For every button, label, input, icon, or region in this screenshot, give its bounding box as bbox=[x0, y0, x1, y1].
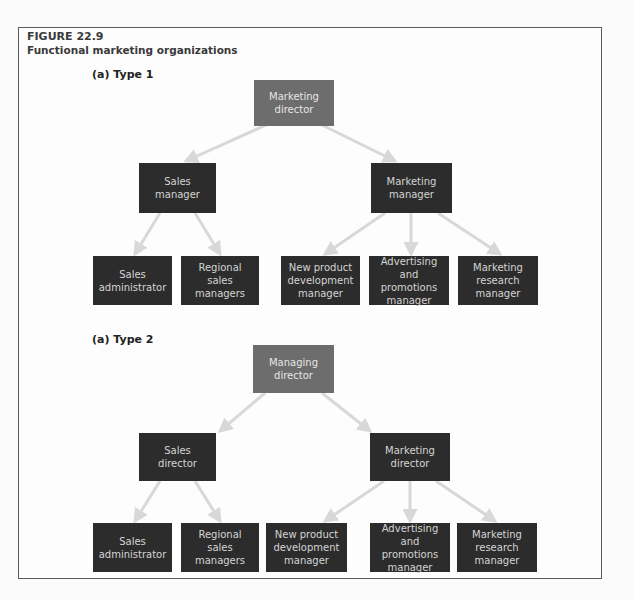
type1-label: (a) Type 1 bbox=[92, 68, 154, 81]
node-label: Managing director bbox=[264, 356, 324, 382]
type2-new-product-development-manager-node: New product development manager bbox=[266, 523, 347, 572]
type1-advertising-promotions-manager-node: Advertising and promotions manager bbox=[369, 256, 449, 305]
type1-marketing-manager-node: Marketing manager bbox=[371, 163, 452, 213]
node-label: Marketing research manager bbox=[468, 261, 528, 300]
type1-regional-sales-managers-node: Regional sales managers bbox=[181, 256, 259, 305]
type2-advertising-promotions-manager-node: Advertising and promotions manager bbox=[370, 523, 450, 572]
node-label: New product development manager bbox=[269, 528, 344, 567]
type1-root-node: Marketing director bbox=[254, 80, 334, 126]
type1-new-product-development-manager-node: New product development manager bbox=[281, 256, 360, 305]
node-label: New product development manager bbox=[284, 261, 357, 300]
node-label: Marketing director bbox=[257, 90, 331, 116]
type2-sales-administrator-node: Sales administrator bbox=[93, 523, 172, 572]
type2-marketing-research-manager-node: Marketing research manager bbox=[457, 523, 537, 572]
node-label: Sales director bbox=[153, 444, 203, 470]
node-label: Marketing director bbox=[373, 444, 447, 470]
node-label: Advertising and promotions manager bbox=[372, 255, 446, 307]
node-label: Regional sales managers bbox=[190, 261, 250, 300]
figure-title: Functional marketing organizations bbox=[27, 44, 238, 56]
node-label: Marketing research manager bbox=[467, 528, 527, 567]
node-label: Advertising and promotions manager bbox=[373, 522, 447, 574]
type1-sales-manager-node: Sales manager bbox=[139, 163, 216, 213]
type2-sales-director-node: Sales director bbox=[139, 433, 216, 481]
figure-number: FIGURE 22.9 bbox=[27, 30, 104, 43]
node-label: Sales administrator bbox=[96, 268, 169, 294]
node-label: Regional sales managers bbox=[190, 528, 250, 567]
node-label: Sales administrator bbox=[96, 535, 169, 561]
type2-regional-sales-managers-node: Regional sales managers bbox=[181, 523, 259, 572]
node-label: Marketing manager bbox=[374, 175, 449, 201]
type1-marketing-research-manager-node: Marketing research manager bbox=[458, 256, 538, 305]
type2-root-node: Managing director bbox=[253, 345, 334, 393]
type2-label: (a) Type 2 bbox=[92, 333, 154, 346]
type2-marketing-director-node: Marketing director bbox=[370, 433, 450, 481]
node-label: Sales manager bbox=[142, 175, 213, 201]
type1-sales-administrator-node: Sales administrator bbox=[93, 256, 172, 305]
